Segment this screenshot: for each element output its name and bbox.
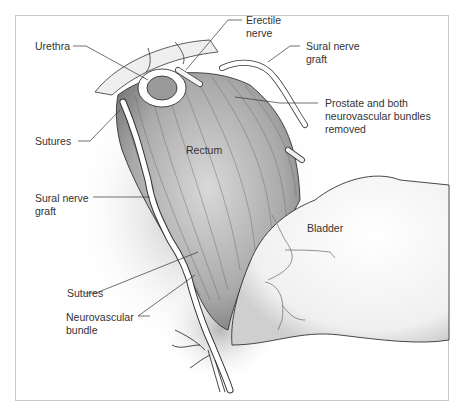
- anatomy-illustration: [0, 0, 463, 413]
- label-sutures-bottom: Sutures: [67, 287, 103, 299]
- label-prostate-line1: Prostate and both: [325, 97, 408, 109]
- label-rectum: Rectum: [186, 144, 222, 156]
- label-erectile-nerve-line1: Erectile: [246, 14, 281, 26]
- urethra: [138, 69, 186, 107]
- label-prostate-line2: neurovascular bundles: [325, 110, 431, 122]
- label-urethra: Urethra: [35, 40, 70, 52]
- label-prostate-line3: removed: [325, 123, 366, 135]
- label-sural-graft-top-line2: graft: [306, 53, 327, 65]
- label-sutures-top: Sutures: [35, 135, 71, 147]
- label-sural-graft-left-line1: Sural nerve: [35, 192, 89, 204]
- label-neurovascular-line2: bundle: [66, 324, 98, 336]
- label-neurovascular-line1: Neurovascular: [66, 311, 134, 323]
- label-erectile-nerve-line2: nerve: [246, 27, 272, 39]
- label-bladder: Bladder: [307, 222, 343, 234]
- label-sural-graft-left-line2: graft: [35, 205, 56, 217]
- label-sural-graft-top-line1: Sural nerve: [306, 40, 360, 52]
